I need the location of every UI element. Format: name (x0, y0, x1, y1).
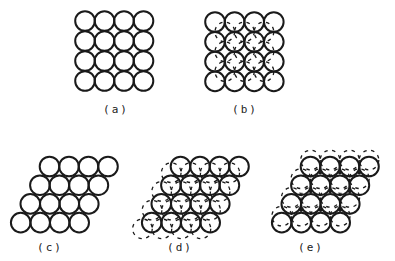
sphere-layer-1 (340, 194, 360, 214)
sphere-layer-1 (50, 213, 70, 233)
interstitial-point (358, 171, 362, 175)
sphere-layer-1 (60, 194, 80, 214)
interstitial-point (299, 208, 303, 212)
sphere-layer-1 (311, 213, 331, 233)
sphere-layer-1 (114, 11, 134, 31)
sphere-layer-1 (95, 71, 115, 91)
label-c: (c) (37, 241, 63, 254)
sphere-layer-1 (69, 175, 89, 195)
interstitial-point (338, 208, 342, 212)
label-a: (a) (103, 103, 129, 116)
sphere-layer-1 (95, 51, 115, 71)
label-b: (b) (232, 103, 258, 116)
interstitial-point (309, 190, 313, 194)
sphere-layer-1 (350, 175, 370, 195)
panel-a-square-layer (75, 11, 153, 91)
sphere-layer-1 (59, 157, 79, 177)
sphere-layer-1 (75, 31, 95, 51)
sphere-layer-1 (340, 157, 360, 177)
sphere-layer-1 (89, 175, 109, 195)
sphere-layer-1 (114, 51, 134, 71)
sphere-layer-1 (321, 194, 341, 214)
panel-c-hex-layer (11, 157, 118, 233)
sphere-layer-1 (134, 51, 154, 71)
sphere-layer-1 (30, 213, 50, 233)
sphere-layer-1 (320, 157, 340, 177)
sphere-layer-1 (75, 11, 95, 31)
panel-d-hex-two-layers (133, 157, 249, 239)
sphere-layer-1 (311, 175, 331, 195)
sphere-layer-1 (114, 71, 134, 91)
sphere-layer-1 (291, 175, 311, 195)
panel-e-hex-three-layers (272, 150, 379, 232)
sphere-layer-1 (291, 213, 311, 233)
sphere-layer-1 (98, 157, 118, 177)
sphere-layer-1 (282, 194, 302, 214)
sphere-layer-1 (11, 213, 31, 233)
sphere-layer-1 (134, 71, 154, 91)
sphere-layer-1 (50, 175, 70, 195)
sphere-layer-1 (330, 175, 350, 195)
interstitial-point (319, 208, 323, 212)
sphere-layer-1 (40, 194, 60, 214)
sphere-layer-1 (69, 213, 89, 233)
panel-b-square-two-layers (205, 12, 283, 91)
sphere-layer-1 (359, 157, 379, 177)
sphere-layer-1 (330, 213, 350, 233)
sphere-layer-1 (79, 194, 99, 214)
sphere-layer-1 (40, 157, 60, 177)
sphere-layer-1 (301, 194, 321, 214)
interstitial-point (328, 190, 332, 194)
sphere-layer-1 (75, 51, 95, 71)
sphere-layer-1 (75, 71, 95, 91)
sphere-layer-1 (134, 11, 154, 31)
sphere-layer-1 (79, 157, 99, 177)
sphere-layer-1 (301, 157, 321, 177)
interstitial-point (338, 171, 342, 175)
sphere-layer-1 (30, 175, 50, 195)
sphere-layer-1 (134, 31, 154, 51)
sphere-layer-1 (95, 11, 115, 31)
interstitial-point (348, 190, 352, 194)
label-e: (e) (298, 241, 324, 254)
sphere-layer-1 (114, 31, 134, 51)
label-d: (d) (167, 241, 193, 254)
sphere-layer-1 (272, 213, 292, 233)
sphere-layer-1 (95, 31, 115, 51)
sphere-layer-1 (21, 194, 41, 214)
close-packing-diagram (0, 0, 395, 261)
interstitial-point (319, 171, 323, 175)
